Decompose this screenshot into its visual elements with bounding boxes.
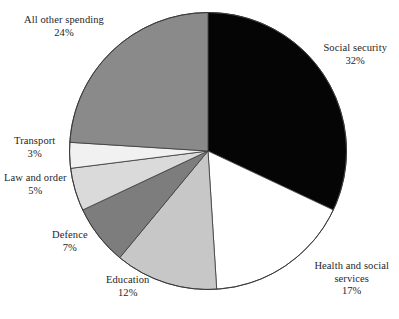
pie-label-transport-value: 3% <box>14 148 55 161</box>
pie-label-social-security-name: Social security <box>323 42 387 55</box>
pie-label-transport: Transport 3% <box>14 135 55 160</box>
pie-label-law-and-order-name: Law and order <box>4 172 67 185</box>
pie-label-social-security-value: 32% <box>323 55 387 68</box>
pie-label-defence: Defence 7% <box>52 229 88 254</box>
pie-label-law-and-order-value: 5% <box>4 185 67 198</box>
pie-label-transport-name: Transport <box>14 135 55 148</box>
pie-label-education-value: 12% <box>106 287 149 300</box>
pie-chart: All other spending 24% Social security 3… <box>0 0 399 319</box>
pie-label-health-and-social-services-name-line2: services <box>314 273 389 286</box>
pie-label-health-and-social-services-value: 17% <box>314 285 389 298</box>
pie-label-social-security: Social security 32% <box>323 42 387 67</box>
pie-label-health-and-social-services-name-line1: Health and social <box>314 260 389 273</box>
pie-slice-group <box>69 13 346 290</box>
pie-label-defence-value: 7% <box>52 242 88 255</box>
pie-label-all-other-spending-value: 24% <box>24 27 104 40</box>
pie-label-law-and-order: Law and order 5% <box>4 172 67 197</box>
pie-label-all-other-spending: All other spending 24% <box>24 14 104 39</box>
pie-label-education-name: Education <box>106 274 149 287</box>
pie-label-education: Education 12% <box>106 274 149 299</box>
pie-label-defence-name: Defence <box>52 229 88 242</box>
pie-label-health-and-social-services: Health and social services 17% <box>314 260 389 298</box>
pie-label-all-other-spending-name: All other spending <box>24 14 104 27</box>
